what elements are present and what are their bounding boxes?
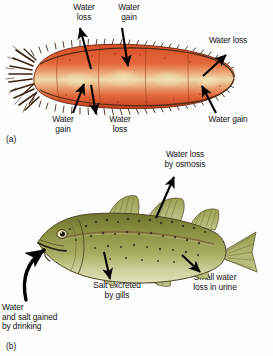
panel-b-id: (b) [6,341,16,351]
arrow-small-water-loss-in-urine [182,255,200,272]
fish-operculum [78,219,84,274]
label-salt-excreted-by-gills: Salt excreted by gills [75,281,159,300]
arrow-water-gain-bottom-left [73,84,84,113]
fish-pectoral-fin [106,250,132,274]
fish-barbel [44,249,50,261]
label-water-loss-bottom: Water loss [99,115,141,134]
panel-b-arrows [104,177,200,279]
label-water-loss-top-left: Water loss [63,3,105,22]
fish-eye [57,230,67,239]
fish-caudal-fin [222,232,257,272]
arrow-water-loss-top-left [80,28,91,69]
arrow-water-and-salt-gained-by-drinking [24,250,44,300]
arrow-water-loss-by-osmosis [156,177,174,218]
label-water-gain-top: Water gain [108,3,150,22]
arrow-water-gain-top [122,28,128,66]
arrow-water-gain-bottom-right [202,86,216,113]
label-small-water-loss-in-urine: Small water loss in urine [176,273,254,292]
osmoregulation-figure: Water loss Water gain Water loss Water g… [0,0,273,356]
fish-mouth [38,243,66,251]
label-water-loss-by-osmosis: Water loss by osmosis [140,150,230,169]
arrow-water-loss-bottom [91,85,96,114]
sea-cucumber-illustration [6,39,234,115]
fish-lateral-line [62,232,214,244]
label-water-gain-bottom-right: Water gain [196,115,260,125]
label-water-loss-top-right: Water loss [197,36,259,46]
fish-dorsal-fin-1 [104,196,139,227]
label-water-and-salt-gained-by-drinking: Water and salt gained by drinking [2,303,88,332]
arrow-salt-excreted-by-gills [104,252,110,279]
label-water-gain-bottom-left: Water gain [42,115,84,134]
arrow-water-loss-top-right [203,55,226,76]
panel-a-id: (a) [6,134,16,144]
fish-dorsal-fin-2 [146,198,184,222]
sea-cucumber-body [34,44,234,108]
fish-dorsal-fin-3 [190,209,219,230]
